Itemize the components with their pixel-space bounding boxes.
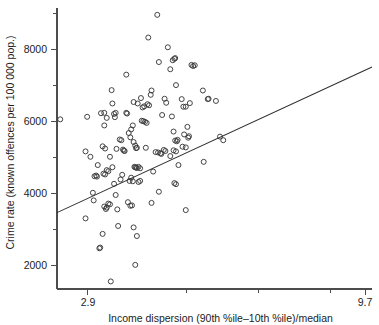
y-axis-tick-labels: 2000400060008000 xyxy=(24,43,48,271)
data-point xyxy=(134,234,139,239)
data-point xyxy=(156,189,161,194)
data-point xyxy=(91,198,96,203)
data-point xyxy=(100,231,105,236)
x-tick-label-2.9: 2.9 xyxy=(81,296,96,308)
data-point xyxy=(128,135,133,140)
data-point xyxy=(120,172,125,177)
data-point xyxy=(138,96,143,101)
x-axis-title: Income dispersion (90th %ile–10th %ile)/… xyxy=(108,312,333,324)
data-point xyxy=(173,182,178,187)
y-tick-label-6000: 6000 xyxy=(24,115,48,127)
data-point xyxy=(104,115,109,120)
data-point xyxy=(133,262,138,267)
data-point xyxy=(85,114,90,119)
data-point xyxy=(138,178,143,183)
data-point xyxy=(146,35,151,40)
data-point xyxy=(168,154,173,159)
data-point xyxy=(107,154,112,159)
x-axis-group: 2.99.7 Income dispersion (90th %ile–10th… xyxy=(57,289,373,324)
x-axis-tick-labels: 2.99.7 xyxy=(81,296,373,308)
data-point xyxy=(115,207,120,212)
scatter-plot-canvas: 2000400060008000 Crime rate (known offen… xyxy=(0,0,379,325)
data-point xyxy=(116,223,121,228)
data-point xyxy=(131,225,136,230)
data-point xyxy=(185,124,190,129)
data-point xyxy=(171,129,176,134)
data-point xyxy=(151,169,156,174)
y-axis-title: Crime rate (known offences per 100 000 p… xyxy=(4,35,16,249)
data-point xyxy=(102,123,107,128)
y-axis-group: 2000400060008000 Crime rate (known offen… xyxy=(4,8,57,289)
y-tick-label-4000: 4000 xyxy=(24,187,48,199)
data-point xyxy=(124,72,129,77)
data-point xyxy=(110,165,115,170)
data-point xyxy=(110,101,115,106)
data-point xyxy=(173,83,178,88)
data-point xyxy=(149,200,154,205)
data-point xyxy=(168,67,173,72)
data-point xyxy=(83,216,88,221)
data-point xyxy=(155,12,160,17)
data-point xyxy=(183,208,188,213)
y-tick-label-8000: 8000 xyxy=(24,43,48,55)
data-point xyxy=(160,113,165,118)
data-point xyxy=(90,190,95,195)
y-tick-label-2000: 2000 xyxy=(24,259,48,271)
x-axis-ticks xyxy=(88,289,365,295)
data-point-series xyxy=(58,12,226,284)
data-point xyxy=(143,145,148,150)
data-point xyxy=(165,45,170,50)
scatter-plot-figure: 2000400060008000 Crime rate (known offen… xyxy=(0,0,379,325)
data-point xyxy=(83,149,88,154)
data-point xyxy=(169,114,174,119)
data-point xyxy=(183,145,188,150)
data-point xyxy=(109,88,114,93)
data-point xyxy=(114,146,119,151)
data-point xyxy=(102,110,107,115)
data-point xyxy=(201,159,206,164)
data-point xyxy=(95,163,100,168)
data-point xyxy=(58,117,63,122)
data-point xyxy=(176,163,181,168)
data-point xyxy=(113,192,118,197)
data-point xyxy=(163,149,168,154)
data-point xyxy=(156,60,161,65)
data-point xyxy=(221,138,226,143)
data-point xyxy=(108,279,113,284)
y-axis-ticks xyxy=(51,13,57,265)
regression-fit-line xyxy=(57,67,372,213)
data-point xyxy=(200,88,205,93)
x-tick-label-9.7: 9.7 xyxy=(358,296,373,308)
data-point xyxy=(106,169,111,174)
data-point xyxy=(213,98,218,103)
data-point xyxy=(88,154,93,159)
data-point xyxy=(147,103,152,108)
data-point xyxy=(187,101,192,106)
data-point xyxy=(179,97,184,102)
